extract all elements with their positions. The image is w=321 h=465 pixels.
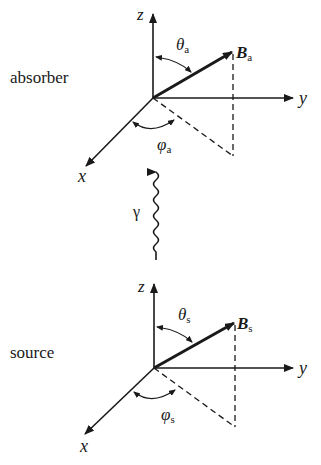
diagram-canvas: absorber z y x Ba θa φa γ source z y x B…: [0, 0, 321, 465]
source-panel: source z y x Bs θs φs: [10, 277, 307, 456]
wavy-arrow: [154, 172, 159, 260]
absorber-label: absorber: [10, 68, 69, 87]
x-axis-label: x: [77, 166, 86, 186]
x-axis: [85, 368, 154, 434]
theta-label: θs: [178, 305, 191, 325]
gamma-label: γ: [132, 203, 140, 221]
b-field-vector: [154, 323, 234, 368]
theta-arc: [156, 57, 191, 72]
z-axis-label: z: [136, 5, 144, 24]
photon-wave: γ: [132, 172, 159, 260]
phi-label: φs: [161, 405, 175, 425]
y-axis-label: y: [297, 358, 307, 378]
theta-arc: [157, 327, 192, 342]
phi-arc: [133, 120, 174, 129]
phi-arc: [134, 390, 175, 399]
x-axis: [86, 98, 153, 166]
b-field-label: Ba: [235, 43, 252, 63]
y-axis-label: y: [297, 88, 307, 108]
source-label: source: [10, 343, 54, 362]
x-axis-label: x: [79, 436, 88, 456]
z-axis-label: z: [137, 277, 145, 296]
phi-label: φa: [157, 135, 171, 155]
b-field-label: Bs: [236, 314, 253, 334]
absorber-panel: absorber z y x Ba θa φa: [10, 5, 307, 186]
theta-label: θa: [176, 35, 189, 55]
